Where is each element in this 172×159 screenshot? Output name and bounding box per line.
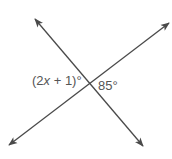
angle-label-left: (2x + 1)° (32, 73, 82, 88)
intersecting-lines-diagram: (2x + 1)° 85° (0, 0, 172, 159)
angle-label-right: 85° (98, 78, 118, 93)
